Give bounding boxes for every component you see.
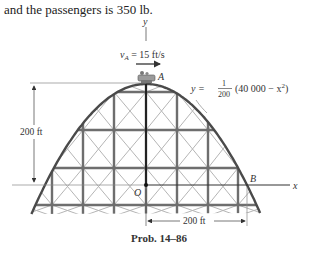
truss-brace — [21, 205, 52, 216]
truss-brace — [21, 168, 52, 205]
point-a-label: A — [157, 71, 165, 82]
velocity-label: vA = 15 ft/s — [120, 49, 165, 62]
truss-brace — [21, 80, 52, 92]
truss-brace — [52, 92, 83, 130]
equation-rhs-body: (40 000 − x — [235, 83, 281, 95]
problem-figure-page: and the passengers is 350 lb. — [0, 0, 318, 254]
truss-brace — [83, 80, 114, 92]
truss-brace — [21, 92, 52, 130]
x-axis-label: x — [292, 180, 298, 191]
roller-coaster-diagram: y x O A B vA = 15 ft/s y = 1 200 (40 000… — [0, 0, 318, 254]
truss-structure — [10, 80, 290, 216]
origin-point — [144, 183, 148, 187]
truss-brace — [238, 92, 270, 130]
equation-rhs: (40 000 − x2) — [235, 82, 288, 95]
truss-brace — [83, 80, 114, 92]
truss-brace — [52, 80, 83, 92]
equation-numerator: 1 — [222, 79, 226, 88]
truss-brace — [238, 130, 270, 168]
equation-lhs: y = — [190, 83, 205, 94]
truss-brace — [238, 130, 270, 168]
truss-brace — [238, 92, 270, 130]
height-dimension-label: 200 ft — [20, 127, 43, 137]
equation-denominator: 200 — [218, 90, 230, 99]
width-dimension-label: 200 ft — [183, 216, 206, 226]
coaster-car-icon — [138, 71, 155, 83]
y-axis-label: y — [142, 16, 148, 27]
point-b-label: B — [250, 173, 256, 184]
velocity-value: = 15 ft/s — [129, 49, 165, 60]
equation-close: ) — [285, 83, 288, 95]
curve-equation: y = 1 200 (40 000 − x2) — [190, 79, 288, 99]
origin-label: O — [134, 187, 141, 198]
truss-brace — [21, 80, 52, 92]
truss-brace — [52, 92, 83, 130]
figure-caption: Prob. 14–86 — [0, 232, 318, 244]
truss-brace — [21, 92, 52, 130]
truss-brace — [52, 80, 83, 92]
